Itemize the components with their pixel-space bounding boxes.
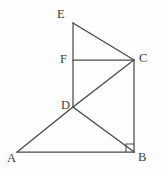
segment-DA — [17, 107, 73, 152]
segment-DC — [73, 60, 134, 107]
vertex-label-a: A — [7, 152, 16, 165]
geometry-figure: A B C D E F — [0, 0, 161, 171]
vertex-label-e: E — [57, 8, 65, 21]
vertex-label-c: C — [139, 52, 147, 65]
segment-DB — [73, 107, 134, 152]
vertex-label-d: D — [61, 99, 70, 112]
vertex-label-b: B — [138, 151, 146, 164]
geometry-canvas — [0, 0, 161, 171]
vertex-label-f: F — [60, 53, 67, 66]
segment-EC — [73, 23, 134, 60]
